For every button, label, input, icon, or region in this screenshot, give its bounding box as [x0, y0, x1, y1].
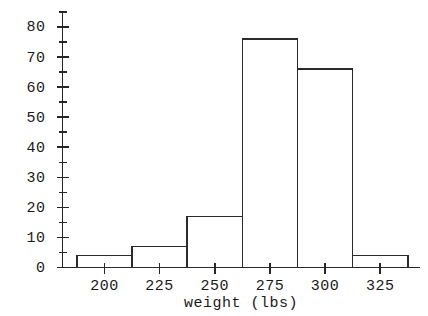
x-tick-label: 325 — [366, 278, 395, 295]
histogram-bar — [298, 69, 353, 267]
y-tick-label: 60 — [26, 80, 45, 97]
histogram-bar — [187, 216, 242, 267]
x-axis-title: weight (lbs) — [184, 295, 298, 312]
x-tick-label: 300 — [311, 278, 340, 295]
plot-area: 01020304050607080 200225250275300325 wei… — [0, 0, 428, 316]
y-tick-label: 80 — [26, 19, 45, 36]
x-tick-label: 275 — [256, 278, 285, 295]
x-tick-label: 200 — [90, 278, 119, 295]
y-tick-label: 10 — [26, 230, 45, 247]
y-axis-tick-labels: 01020304050607080 — [26, 19, 45, 276]
histogram-bar — [242, 39, 297, 267]
histogram-chart: 01020304050607080 200225250275300325 wei… — [0, 0, 428, 316]
histogram-bars — [77, 39, 408, 267]
y-tick-label: 40 — [26, 140, 45, 157]
y-tick-label: 50 — [26, 110, 45, 127]
y-tick-label: 30 — [26, 170, 45, 187]
y-tick-label: 20 — [26, 200, 45, 217]
x-axis-tick-labels: 200225250275300325 — [90, 278, 394, 295]
x-tick-label: 250 — [201, 278, 230, 295]
y-tick-label: 0 — [36, 260, 46, 277]
y-tick-label: 70 — [26, 50, 45, 67]
x-tick-label: 225 — [145, 278, 174, 295]
